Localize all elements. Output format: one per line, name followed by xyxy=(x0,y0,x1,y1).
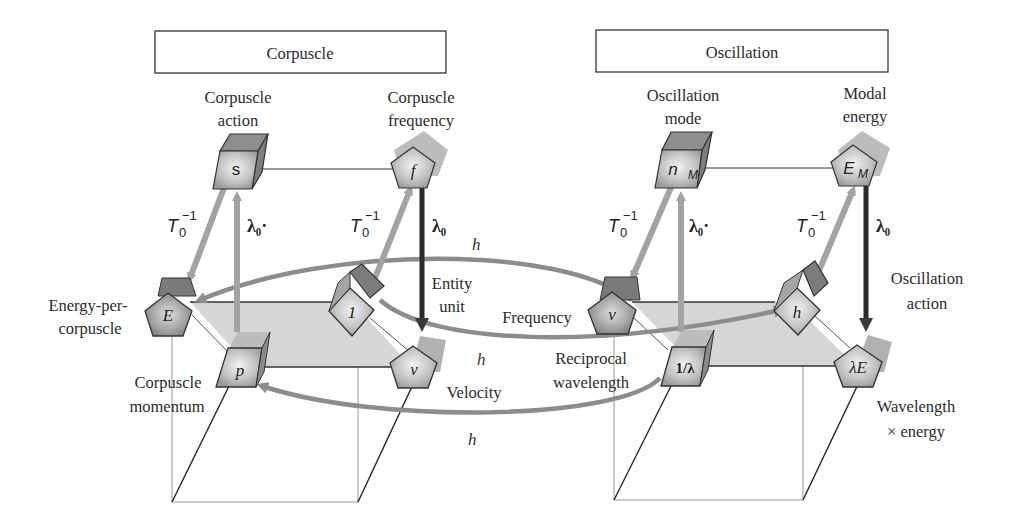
label-modal-energy-2: energy xyxy=(843,107,888,126)
op-label-t0inv-right-1: T 0 −1 xyxy=(608,208,638,240)
h-label-top: h xyxy=(472,235,481,254)
svg-text:−1: −1 xyxy=(182,208,197,223)
svg-text:0: 0 xyxy=(808,225,815,240)
corpuscle-oscillation-diagram: Corpuscle Oscillation xyxy=(0,0,1010,523)
svg-text:0: 0 xyxy=(362,225,369,240)
svg-text:h: h xyxy=(793,303,802,322)
svg-text:E: E xyxy=(843,159,855,178)
svg-text:−1: −1 xyxy=(365,208,380,223)
svg-text:1: 1 xyxy=(348,303,357,322)
node-frequency[interactable]: ν xyxy=(588,277,640,334)
op-label-t0inv-right-2: T 0 −1 xyxy=(796,208,826,240)
op-label-t0inv-left-1: T 0 −1 xyxy=(167,208,197,240)
t0inv-arrow-1-to-f xyxy=(375,190,410,278)
label-oscillation-action-1: Oscillation xyxy=(891,269,963,288)
op-label-lambda0dot-left: λ₀· xyxy=(247,216,267,236)
label-modal-energy-1: Modal xyxy=(843,84,886,103)
label-corpuscle-action-1: Corpuscle xyxy=(205,88,272,107)
label-corpuscle-momentum-1: Corpuscle xyxy=(135,373,202,392)
label-corpuscle-frequency-1: Corpuscle xyxy=(388,88,455,107)
label-oscillation-mode-2: mode xyxy=(665,109,702,128)
svg-text:n: n xyxy=(668,160,677,179)
right-base-parallelogram xyxy=(614,378,861,500)
svg-text:M: M xyxy=(858,167,868,181)
t0inv-arrow-nM-to-nu xyxy=(633,185,672,276)
t0inv-arrow-h-to-EM xyxy=(816,190,853,278)
svg-text:Oscillation: Oscillation xyxy=(706,43,778,62)
label-corpuscle-frequency-2: frequency xyxy=(388,111,455,130)
svg-text:Corpuscle: Corpuscle xyxy=(267,44,334,63)
op-label-lambda0-right: λ₀ xyxy=(876,216,890,236)
node-energy-per-corpuscle[interactable]: E xyxy=(145,278,196,336)
svg-text:s: s xyxy=(232,160,241,179)
svg-text:0: 0 xyxy=(620,225,627,240)
header-corpuscle: Corpuscle xyxy=(155,31,446,73)
svg-text:1/λ: 1/λ xyxy=(675,360,695,376)
label-frequency: Frequency xyxy=(502,308,572,327)
label-energy-per-corpuscle-1: Energy-per- xyxy=(48,296,127,315)
node-corpuscle-action[interactable]: s xyxy=(213,134,268,189)
svg-text:M: M xyxy=(688,168,698,182)
node-velocity[interactable]: v xyxy=(390,336,446,388)
label-corpuscle-action-2: action xyxy=(218,111,258,130)
label-wavelength-energy-2: × energy xyxy=(887,422,946,441)
h-label-middle: h xyxy=(477,350,486,369)
op-label-lambda0dot-right: λ₀· xyxy=(689,216,709,236)
node-corpuscle-momentum[interactable]: p xyxy=(216,332,270,387)
label-oscillation-mode-1: Oscillation xyxy=(647,86,719,105)
svg-text:p: p xyxy=(235,361,245,380)
svg-text:−1: −1 xyxy=(623,208,638,223)
svg-text:−1: −1 xyxy=(811,208,826,223)
h-label-bottom: h xyxy=(468,430,477,449)
svg-text:E: E xyxy=(162,306,174,325)
node-oscillation-mode[interactable]: n M xyxy=(655,132,712,188)
svg-text:v: v xyxy=(410,360,418,379)
label-oscillation-action-2: action xyxy=(907,294,947,313)
label-entity-unit-2: unit xyxy=(439,297,465,316)
label-entity-unit-1: Entity xyxy=(432,274,473,293)
h-arrow-top xyxy=(200,259,632,300)
op-label-t0inv-left-2: T 0 −1 xyxy=(350,208,380,240)
node-wavelength-energy[interactable]: λE xyxy=(834,335,892,387)
label-velocity: Velocity xyxy=(447,383,503,402)
svg-text:ν: ν xyxy=(608,305,616,324)
label-energy-per-corpuscle-2: corpuscle xyxy=(58,319,121,338)
op-label-lambda0-left: λ₀ xyxy=(432,216,446,236)
left-plane xyxy=(190,302,412,367)
node-corpuscle-frequency[interactable]: f xyxy=(391,131,448,188)
right-plane xyxy=(632,302,856,366)
label-reciprocal-wavelength-1: Reciprocal xyxy=(555,349,627,368)
label-wavelength-energy-1: Wavelength xyxy=(877,397,956,416)
node-modal-energy[interactable]: E M xyxy=(831,131,890,186)
svg-text:λE: λE xyxy=(848,358,867,377)
t0inv-arrow-s-to-E xyxy=(190,185,225,278)
label-corpuscle-momentum-2: momentum xyxy=(129,397,204,416)
header-oscillation: Oscillation xyxy=(596,30,888,72)
label-reciprocal-wavelength-2: wavelength xyxy=(553,373,630,392)
svg-text:0: 0 xyxy=(179,225,186,240)
